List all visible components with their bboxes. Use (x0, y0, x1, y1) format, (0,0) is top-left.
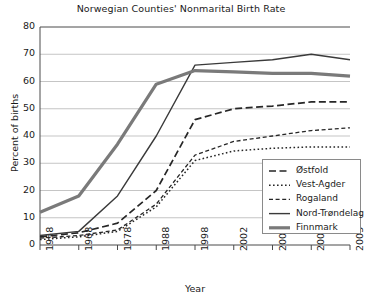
legend-item: Rogaland (267, 191, 361, 206)
legend-item: Nord-Trøndelag (267, 206, 361, 221)
x-axis-ticks (40, 245, 350, 250)
chart-legend: ØstfoldVest-AgderRogalandNord-TrøndelagF… (262, 159, 361, 234)
legend-item: Finnmark (267, 220, 361, 235)
legend-item-label: Vest-Agder (296, 179, 345, 189)
legend-item-label: Nord-Trøndelag (296, 208, 364, 218)
legend-item: Østfold (267, 163, 361, 178)
legend-item: Vest-Agder (267, 177, 361, 192)
legend-item-label: Rogaland (296, 193, 338, 203)
legend-item-label: Østfold (296, 165, 328, 175)
legend-item-label: Finnmark (296, 222, 338, 232)
